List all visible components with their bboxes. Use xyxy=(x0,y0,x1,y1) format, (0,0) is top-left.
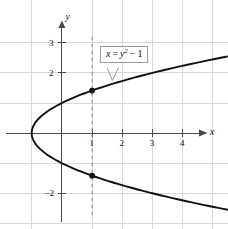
x-tick-label-3: 3 xyxy=(150,138,155,148)
plot-canvas xyxy=(0,0,228,229)
parabola-figure: 1 2 3 4 3 2 −2 x y x=y2−1 xyxy=(0,0,228,229)
equation-minus-sign: − xyxy=(130,48,136,59)
y-axis xyxy=(58,21,65,223)
equation-equals-sign: = xyxy=(112,48,118,59)
callout-leader-line xyxy=(107,68,119,81)
x-axis-arrow xyxy=(199,130,208,137)
equation-lhs: x xyxy=(106,48,110,59)
x-tick-label-2: 2 xyxy=(120,138,125,148)
marked-point-lower xyxy=(89,173,95,179)
equation-exponent: 2 xyxy=(125,46,128,53)
x-tick-label-1: 1 xyxy=(89,138,94,148)
x-tick-label-4: 4 xyxy=(180,138,185,148)
marked-point-upper xyxy=(89,88,95,94)
equation-callout-box: x=y2−1 xyxy=(100,46,148,63)
x-axis-label: x xyxy=(210,127,214,137)
y-tick-label-2: 2 xyxy=(49,68,54,78)
y-tick-label-negative-2: −2 xyxy=(45,188,55,198)
grid-lines-vertical xyxy=(32,0,213,229)
equation-constant: 1 xyxy=(137,48,142,59)
y-axis-label: y xyxy=(66,12,70,22)
y-axis-arrow xyxy=(58,21,65,29)
parabola-lower-branch xyxy=(32,133,228,210)
x-axis xyxy=(6,130,208,137)
y-tick-label-3: 3 xyxy=(49,38,54,48)
parabola-upper-branch xyxy=(32,56,228,133)
